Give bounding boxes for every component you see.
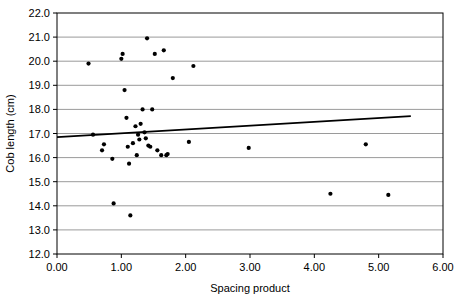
data-point <box>153 52 157 56</box>
y-tick-label: 15.0 <box>29 176 50 188</box>
y-tick-label: 19.0 <box>29 79 50 91</box>
data-point <box>247 146 251 150</box>
data-point <box>162 48 166 52</box>
data-point <box>364 142 368 146</box>
data-point <box>159 153 163 157</box>
data-point <box>142 130 146 134</box>
x-tick-label: 6.00 <box>432 261 453 273</box>
data-point <box>100 148 104 152</box>
data-point <box>124 116 128 120</box>
x-axis: 0.001.002.003.004.005.006.00 <box>46 254 453 273</box>
data-point <box>102 142 106 146</box>
data-point <box>112 201 116 205</box>
data-point <box>121 52 125 56</box>
data-point <box>86 62 90 66</box>
data-point <box>166 152 170 156</box>
data-point <box>110 157 114 161</box>
x-axis-title: Spacing product <box>210 282 290 294</box>
y-axis-title: Cob length (cm) <box>4 94 16 172</box>
data-point <box>137 137 141 141</box>
data-point <box>171 76 175 80</box>
scatter-chart-figure: 12.013.014.015.016.017.018.019.020.021.0… <box>0 0 470 298</box>
data-point <box>145 36 149 40</box>
data-point <box>139 122 143 126</box>
data-point <box>150 107 154 111</box>
data-point <box>127 162 131 166</box>
y-tick-label: 22.0 <box>29 7 50 19</box>
data-point <box>187 140 191 144</box>
y-tick-label: 14.0 <box>29 200 50 212</box>
data-point <box>140 107 144 111</box>
y-tick-label: 13.0 <box>29 224 50 236</box>
chart-canvas: 12.013.014.015.016.017.018.019.020.021.0… <box>0 0 470 298</box>
data-point <box>119 57 123 61</box>
data-point <box>155 148 159 152</box>
y-tick-label: 21.0 <box>29 31 50 43</box>
y-tick-label: 18.0 <box>29 103 50 115</box>
data-point <box>148 145 152 149</box>
y-tick-label: 16.0 <box>29 152 50 164</box>
data-point <box>191 64 195 68</box>
x-tick-label: 3.00 <box>239 261 260 273</box>
y-axis: 12.013.014.015.016.017.018.019.020.021.0… <box>29 7 57 260</box>
x-tick-label: 1.00 <box>111 261 132 273</box>
data-point <box>128 213 132 217</box>
data-point <box>91 133 95 137</box>
x-tick-label: 4.00 <box>304 261 325 273</box>
x-tick-label: 2.00 <box>175 261 196 273</box>
y-tick-label: 17.0 <box>29 128 50 140</box>
data-point <box>328 192 332 196</box>
data-point <box>386 193 390 197</box>
data-point <box>126 145 130 149</box>
data-point <box>131 141 135 145</box>
y-tick-label: 20.0 <box>29 55 50 67</box>
data-point <box>136 133 140 137</box>
data-point <box>135 153 139 157</box>
data-point <box>133 124 137 128</box>
y-tick-label: 12.0 <box>29 248 50 260</box>
data-point <box>122 88 126 92</box>
x-tick-label: 0.00 <box>46 261 67 273</box>
x-tick-label: 5.00 <box>368 261 389 273</box>
data-point <box>144 136 148 140</box>
